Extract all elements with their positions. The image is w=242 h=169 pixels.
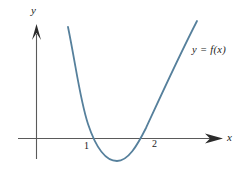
x-axis-label: x: [227, 132, 232, 143]
y-axis-label: y: [31, 5, 36, 16]
graph-canvas: [0, 0, 242, 169]
x-tick-label-1: 1: [84, 141, 89, 151]
function-graph-figure: y x 1 2 y = f(x): [0, 0, 242, 169]
x-tick-label-2: 2: [152, 139, 157, 149]
curve-annotation-label: y = f(x): [192, 45, 226, 56]
